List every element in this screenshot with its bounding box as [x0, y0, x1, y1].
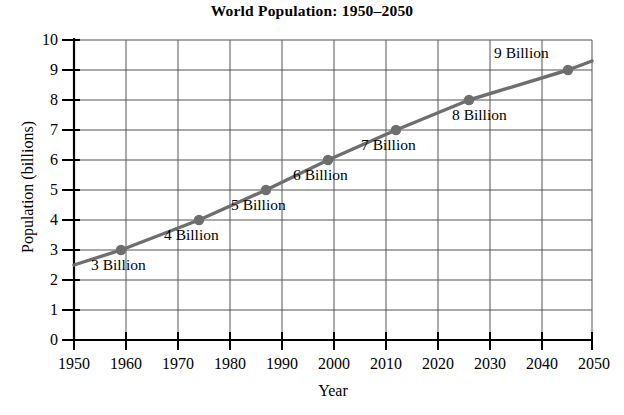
- data-label-6-billion: 6 Billion: [293, 167, 348, 183]
- data-label-3-billion: 3 Billion: [91, 257, 146, 273]
- population-trend-line: [74, 61, 592, 265]
- data-point-3-billion: [116, 245, 126, 255]
- data-point-4-billion: [194, 215, 204, 225]
- data-label-4-billion: 4 Billion: [164, 227, 219, 243]
- data-label-8-billion: 8 Billion: [452, 107, 507, 123]
- data-point-8-billion: [464, 95, 474, 105]
- data-label-7-billion: 7 Billion: [361, 137, 416, 153]
- y-axis-ticks: [62, 40, 80, 310]
- data-point-9-billion: [563, 65, 573, 75]
- data-point-7-billion: [391, 125, 401, 135]
- data-point-5-billion: [261, 185, 271, 195]
- data-label-5-billion: 5 Billion: [231, 197, 286, 213]
- plot-area: [0, 0, 624, 415]
- population-line-chart: World Population: 1950–2050 Population (…: [0, 0, 624, 415]
- data-point-6-billion: [323, 155, 333, 165]
- data-label-9-billion: 9 Billion: [494, 45, 549, 61]
